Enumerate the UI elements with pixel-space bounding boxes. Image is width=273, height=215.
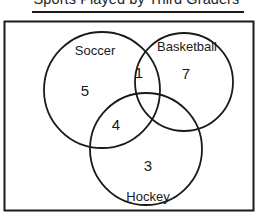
region-count-hockey-only: 3 (144, 157, 152, 174)
region-count-soccer-basketball: 1 (135, 64, 143, 81)
set-label-basketball: Basketball (157, 39, 217, 54)
set-label-hockey: Hockey (126, 189, 170, 204)
region-count-basketball-only: 7 (182, 65, 190, 82)
region-count-soccer-only: 5 (81, 82, 89, 99)
venn-diagram-figure: Sports Played by Third Graders Soccer Ba… (0, 0, 273, 215)
venn-diagram-canvas: Soccer Basketball Hockey 5 7 3 1 4 (0, 0, 273, 215)
region-count-soccer-hockey: 4 (112, 116, 120, 133)
set-label-soccer: Soccer (75, 43, 116, 58)
